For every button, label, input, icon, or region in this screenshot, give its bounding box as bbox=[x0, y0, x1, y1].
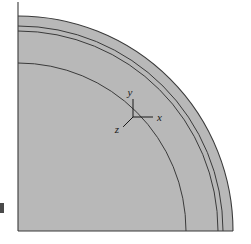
figure-root: y x z bbox=[0, 0, 251, 244]
page-edge-mark bbox=[0, 203, 4, 213]
quarter-sector-fill bbox=[18, 16, 233, 231]
z-axis-label: z bbox=[114, 123, 120, 135]
x-axis-label: x bbox=[156, 111, 162, 123]
y-axis-label: y bbox=[127, 86, 133, 98]
cross-section-drawing: y x z bbox=[0, 0, 251, 244]
